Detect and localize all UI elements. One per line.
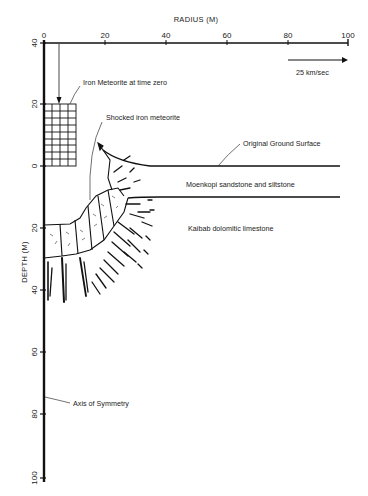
x-tick-0: 0	[42, 31, 47, 40]
impact-diagram: RADIUS (M) 0 20 40 60 80 100 40 20 0 20 …	[0, 0, 368, 496]
x-axis-tick-labels: 0 20 40 60 80 100	[42, 31, 355, 40]
annotation-meteorite-initial: Iron Meteorite at time zero	[70, 78, 167, 104]
ground-surface-line	[103, 150, 340, 166]
y-tick-above-20: 20	[30, 99, 39, 108]
y-tick-above-40: 40	[30, 38, 39, 47]
shocked-meteorite-region	[44, 143, 128, 258]
velocity-scale-arrow: 25 km/sec	[288, 57, 348, 77]
y-tick-0: 0	[30, 163, 39, 168]
y-axis-title: DEPTH (M)	[20, 241, 29, 283]
label-moenkopi: Moenkopi sandstone and siltstone	[186, 180, 295, 189]
annotation-shocked-meteorite: Shocked iron meteorite	[90, 113, 180, 200]
svg-text:Shocked iron meteorite: Shocked iron meteorite	[106, 113, 180, 122]
x-tick-40: 40	[162, 31, 171, 40]
initial-meteorite-grid	[44, 104, 76, 166]
x-tick-60: 60	[223, 31, 232, 40]
annotation-ground-surface: Original Ground Surface	[218, 139, 321, 166]
y-tick-20: 20	[30, 223, 39, 232]
x-axis	[44, 39, 348, 46]
meteorite-trajectory-arrow	[57, 44, 62, 104]
y-axis-tick-labels: 40 20 0 20 40 60 80 100 DEPTH (M)	[20, 38, 39, 485]
annotation-axis-symmetry: Axis of Symmetry	[45, 397, 129, 408]
svg-text:Axis of Symmetry: Axis of Symmetry	[73, 399, 129, 408]
velocity-vectors	[48, 156, 154, 302]
x-tick-20: 20	[101, 31, 110, 40]
x-tick-80: 80	[284, 31, 293, 40]
svg-text:Iron Meteorite at time zero: Iron Meteorite at time zero	[83, 78, 167, 87]
x-tick-100: 100	[341, 31, 355, 40]
y-tick-100: 100	[30, 471, 39, 485]
y-axis	[40, 40, 46, 482]
x-axis-title: RADIUS (M)	[174, 15, 219, 24]
y-tick-40: 40	[30, 285, 39, 294]
svg-text:Original Ground Surface: Original Ground Surface	[243, 139, 321, 148]
y-tick-80: 80	[30, 409, 39, 418]
y-tick-60: 60	[30, 347, 39, 356]
strata-lines	[103, 150, 340, 198]
label-kaibab: Kaibab dolomitic limestone	[188, 224, 274, 233]
shocked-texture-marks	[50, 196, 118, 246]
velocity-scale-label: 25 km/sec	[296, 68, 329, 77]
moenkopi-base-line	[128, 197, 340, 198]
